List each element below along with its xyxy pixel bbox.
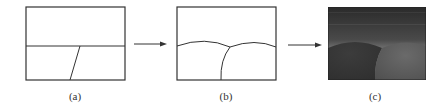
panel-b bbox=[177, 7, 276, 80]
panel-c bbox=[328, 7, 426, 80]
panel-label-a: (a) bbox=[60, 90, 90, 102]
panel-label-b: (b) bbox=[211, 90, 241, 102]
right-arrow-icon bbox=[134, 42, 167, 47]
panel-a bbox=[26, 7, 125, 80]
right-arrow-icon bbox=[288, 43, 322, 48]
panel-label-c: (c) bbox=[360, 90, 390, 102]
